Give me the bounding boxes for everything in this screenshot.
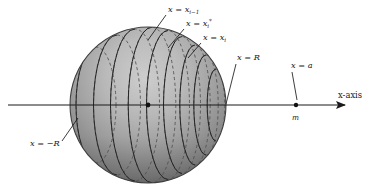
label-point-mass-m: m <box>292 113 299 122</box>
label-x-equals-a: x = a <box>291 60 313 70</box>
figure-canvas: x = xi−1 x = xi* x = xi x = R x = a x = … <box>0 0 375 188</box>
leader-x-a <box>292 72 297 100</box>
label-x-equals-x-i-star: x = xi* <box>186 18 212 30</box>
label-x-equals-negative-R: x = −R <box>30 138 60 148</box>
sphere-center-dot <box>146 103 151 108</box>
point-mass-dot <box>294 103 298 107</box>
label-x-axis: x-axis <box>338 90 362 100</box>
sphere-diagram: x = xi−1 x = xi* x = xi x = R x = a x = … <box>0 0 375 188</box>
label-x-equals-x-i-minus-1: x = xi−1 <box>168 4 199 15</box>
label-x-equals-x-i: x = xi <box>203 32 226 43</box>
label-x-equals-R: x = R <box>237 52 260 62</box>
leader-x-R <box>226 64 236 104</box>
